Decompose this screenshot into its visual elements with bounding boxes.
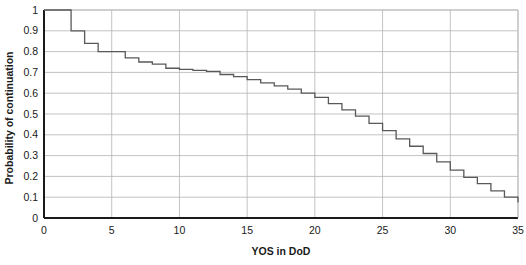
chart-container: 00.10.20.30.40.50.60.70.80.91 0510152025…	[0, 0, 526, 265]
y-tick-label: 0.6	[23, 87, 38, 99]
y-tick-label: 0.2	[23, 170, 38, 182]
y-tick-label: 0.1	[23, 191, 38, 203]
x-tick-label: 20	[309, 224, 321, 236]
y-axis-title: Probability of continuation	[3, 52, 15, 185]
x-axis-title: YOS in DoD	[252, 245, 311, 257]
y-tick-label: 0.4	[23, 128, 38, 140]
x-tick-label: 10	[174, 224, 186, 236]
x-tick-label: 30	[444, 224, 456, 236]
x-tick-label: 0	[41, 224, 47, 236]
y-tick-label: 0.5	[23, 108, 38, 120]
x-tick-label: 15	[241, 224, 253, 236]
probability-of-continuation-step-chart: 00.10.20.30.40.50.60.70.80.91 0510152025…	[0, 0, 526, 265]
y-tick-label: 0.9	[23, 24, 38, 36]
y-tick-label: 0.3	[23, 149, 38, 161]
y-tick-label: 0	[32, 212, 38, 224]
x-tick-label: 35	[512, 224, 524, 236]
x-tick-label: 25	[377, 224, 389, 236]
x-tick-label: 5	[109, 224, 115, 236]
y-tick-label: 0.7	[23, 66, 38, 78]
y-tick-label: 1	[32, 4, 38, 16]
y-tick-label: 0.8	[23, 45, 38, 57]
